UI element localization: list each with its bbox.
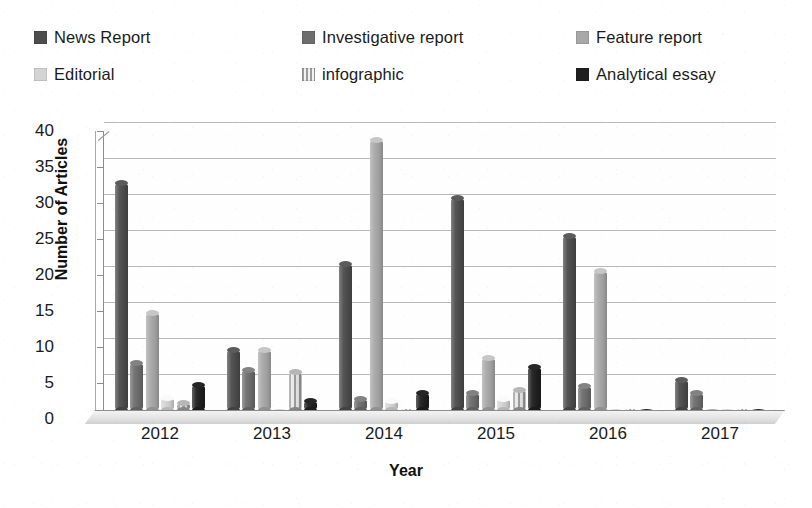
legend-item-analytical-essay: Analytical essay bbox=[576, 65, 716, 84]
legend-item-feature-report: Feature report bbox=[576, 28, 702, 47]
bar-2014-news-report bbox=[339, 264, 352, 410]
bar-2016-investigative-report bbox=[578, 386, 591, 410]
bar-cap bbox=[385, 398, 398, 404]
bar-2016-news-report bbox=[563, 236, 576, 410]
x-axis-title: Year bbox=[0, 462, 812, 480]
legend-item-news-report: News Report bbox=[34, 28, 150, 47]
bar-group-2013 bbox=[216, 122, 328, 410]
legend-swatch-news-report bbox=[34, 31, 47, 44]
y-axis-tick-label: 20 bbox=[8, 265, 54, 285]
bar-2012-infographic bbox=[177, 403, 190, 410]
y-axis-tick-label: 25 bbox=[8, 229, 54, 249]
x-axis-tick-label: 2016 bbox=[563, 424, 653, 444]
legend-swatch-feature-report bbox=[576, 31, 589, 44]
x-axis-tick-label: 2012 bbox=[115, 424, 205, 444]
x-axis-tick-label: 2014 bbox=[339, 424, 429, 444]
bar-2015-feature-report bbox=[482, 358, 495, 410]
bar-2015-investigative-report bbox=[466, 393, 479, 410]
bar-2014-feature-report bbox=[370, 140, 383, 410]
plot-area bbox=[104, 122, 776, 410]
bar-cap bbox=[675, 377, 688, 383]
x-axis-tick-label: 2013 bbox=[227, 424, 317, 444]
bar-2016-feature-report bbox=[594, 271, 607, 410]
bar-2013-feature-report bbox=[258, 350, 271, 410]
bar-group-2012 bbox=[104, 122, 216, 410]
plot-floor bbox=[85, 410, 785, 424]
bar-cap bbox=[146, 310, 159, 316]
bar-group-2017 bbox=[664, 122, 776, 410]
y-axis-tick-label: 30 bbox=[8, 193, 54, 213]
y-axis-title: Number of Articles bbox=[53, 109, 71, 309]
legend-item-editorial: Editorial bbox=[34, 65, 115, 84]
bar-shading bbox=[451, 198, 464, 410]
y-axis-tick-label: 0 bbox=[8, 409, 54, 429]
bar-2012-news-report bbox=[115, 183, 128, 410]
x-axis-tick-label: 2017 bbox=[675, 424, 765, 444]
bar-shading bbox=[594, 271, 607, 410]
bar-2013-analytical-essay bbox=[304, 401, 317, 410]
bar-group-2016 bbox=[552, 122, 664, 410]
y-axis-tick-label: 35 bbox=[8, 157, 54, 177]
bar-2015-editorial bbox=[497, 399, 510, 410]
bar-cap bbox=[370, 137, 383, 143]
bar-group-2015 bbox=[440, 122, 552, 410]
bar-shading bbox=[339, 264, 352, 410]
bar-2015-analytical-essay bbox=[528, 367, 541, 410]
legend-label-analytical-essay: Analytical essay bbox=[596, 65, 716, 84]
bar-cap bbox=[513, 387, 526, 393]
bar-cap bbox=[177, 400, 190, 406]
bar-cap bbox=[339, 261, 352, 267]
bar-2013-infographic bbox=[289, 372, 302, 410]
bar-2012-investigative-report bbox=[130, 363, 143, 410]
legend-swatch-analytical-essay bbox=[576, 68, 589, 81]
bar-shading bbox=[289, 372, 302, 410]
legend-item-investigative-report: Investigative report bbox=[302, 28, 463, 47]
bar-cap bbox=[563, 233, 576, 239]
legend-label-news-report: News Report bbox=[54, 28, 150, 47]
bar-2017-news-report bbox=[675, 380, 688, 410]
bar-2014-editorial bbox=[385, 401, 398, 410]
bar-shading bbox=[130, 363, 143, 410]
bar-2013-news-report bbox=[227, 350, 240, 410]
y-axis-tick-label: 5 bbox=[8, 373, 54, 393]
bar-shading bbox=[482, 358, 495, 410]
bar-cap bbox=[594, 268, 607, 274]
legend-item-infographic: infographic bbox=[302, 65, 404, 84]
y-axis-tick-label: 15 bbox=[8, 301, 54, 321]
bar-shading bbox=[242, 370, 255, 410]
legend-label-infographic: infographic bbox=[322, 65, 404, 84]
bar-shading bbox=[227, 350, 240, 410]
bar-chart: News Report Investigative report Feature… bbox=[0, 0, 812, 508]
legend-label-editorial: Editorial bbox=[54, 65, 115, 84]
bar-2013-investigative-report bbox=[242, 370, 255, 410]
bar-shading bbox=[146, 313, 159, 410]
bar-cap bbox=[451, 195, 464, 201]
bar-2012-analytical-essay bbox=[192, 385, 205, 410]
bar-shading bbox=[115, 183, 128, 410]
bar-cap bbox=[304, 398, 317, 404]
legend-swatch-editorial bbox=[34, 68, 47, 81]
legend-swatch-infographic bbox=[302, 68, 315, 81]
bar-group-2014 bbox=[328, 122, 440, 410]
bar-shading bbox=[675, 380, 688, 410]
legend-swatch-investigative-report bbox=[302, 31, 315, 44]
y-axis-tick-label: 40 bbox=[8, 121, 54, 141]
bar-shading bbox=[370, 140, 383, 410]
chart-legend: News Report Investigative report Feature… bbox=[34, 28, 774, 94]
bar-cap bbox=[192, 382, 205, 388]
bar-2015-news-report bbox=[451, 198, 464, 410]
x-axis-tick-label: 2015 bbox=[451, 424, 541, 444]
bar-2017-investigative-report bbox=[690, 393, 703, 410]
plot-left-wall bbox=[95, 131, 104, 411]
bar-2012-editorial bbox=[161, 398, 174, 410]
bar-shading bbox=[528, 367, 541, 410]
bar-shading bbox=[563, 236, 576, 410]
bar-2015-infographic bbox=[513, 390, 526, 410]
bar-cap bbox=[528, 364, 541, 370]
bar-2014-investigative-report bbox=[354, 399, 367, 410]
legend-label-feature-report: Feature report bbox=[596, 28, 702, 47]
bar-2014-analytical-essay bbox=[416, 393, 429, 410]
bar-cap bbox=[289, 369, 302, 375]
y-axis-tick-label: 10 bbox=[8, 337, 54, 357]
bar-2012-feature-report bbox=[146, 313, 159, 410]
